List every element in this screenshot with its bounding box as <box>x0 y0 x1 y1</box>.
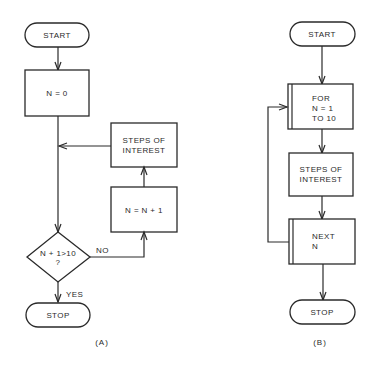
flowchart-a: START N = 0 STEPS OF INTEREST <box>25 23 177 347</box>
stop-terminal-a: STOP <box>26 303 90 327</box>
steps-label-line2-a: INTEREST <box>123 146 166 155</box>
stop-label-a: STOP <box>46 311 69 320</box>
next-label-line2-b: N <box>312 242 318 251</box>
arrow-start-to-for-b <box>319 46 325 84</box>
next-loop-box-b: NEXT N <box>289 219 355 264</box>
for-label-line3-b: TO 10 <box>312 114 336 123</box>
increment-process-box-a: N = N + 1 <box>111 187 177 232</box>
start-label-b: START <box>308 30 335 39</box>
steps-label-line2-b: INTEREST <box>300 175 343 184</box>
decision-label-line1-a: N + 1>10 <box>40 249 76 258</box>
steps-process-box-b: STEPS OF INTEREST <box>289 153 353 196</box>
flowchart-b: START FOR N = 1 TO 10 STEPS OF INTEREST <box>268 22 355 347</box>
increment-label-a: N = N + 1 <box>125 206 163 215</box>
arrow-init-to-decision-a <box>55 116 61 232</box>
caption-b: (B) <box>313 338 327 347</box>
arrow-steps-to-next-b <box>319 196 325 219</box>
caption-a: (A) <box>95 338 109 347</box>
yes-label-a: YES <box>66 290 83 299</box>
stop-terminal-b: STOP <box>290 300 355 324</box>
arrow-next-to-stop-b <box>320 264 326 300</box>
loop-back-arrow-b <box>268 104 289 242</box>
for-label-line1-b: FOR <box>312 94 330 103</box>
stop-label-b: STOP <box>310 308 333 317</box>
yes-branch-arrow-a: YES <box>55 282 83 302</box>
decision-diamond-a: N + 1>10 ? <box>27 232 90 282</box>
arrow-for-to-steps-b <box>319 129 325 153</box>
arrow-increment-to-steps-a <box>141 167 147 187</box>
steps-label-line1-a: STEPS OF <box>123 136 166 145</box>
steps-label-line1-b: STEPS OF <box>300 165 343 174</box>
for-label-line2-b: N = 1 <box>312 104 333 113</box>
flowchart-canvas: START N = 0 STEPS OF INTEREST <box>0 0 379 365</box>
init-label-a: N = 0 <box>46 89 67 98</box>
no-label-a: NO <box>96 246 109 255</box>
next-label-line1-b: NEXT <box>312 232 335 241</box>
arrow-steps-to-mainline-a <box>59 143 111 149</box>
steps-process-box-a: STEPS OF INTEREST <box>111 123 177 167</box>
init-process-box-a: N = 0 <box>25 70 89 116</box>
start-terminal-a: START <box>25 23 89 47</box>
start-label-a: START <box>43 31 70 40</box>
start-terminal-b: START <box>290 22 355 46</box>
arrow-start-to-init-a <box>55 47 61 70</box>
no-branch-arrow-a: NO <box>90 232 147 257</box>
decision-label-line2-a: ? <box>56 258 61 267</box>
for-loop-box-b: FOR N = 1 TO 10 <box>288 84 353 129</box>
